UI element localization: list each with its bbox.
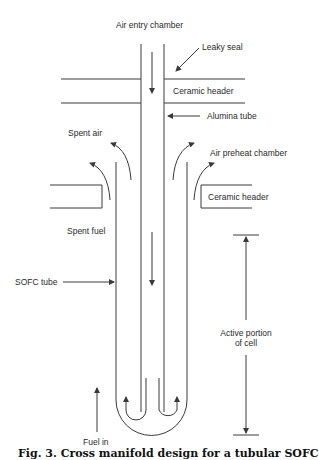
label-air-entry-chamber: Air entry chamber — [116, 20, 183, 30]
label-active-portion-line1: Active portion — [214, 328, 278, 338]
left-ceramic-header — [50, 185, 102, 208]
figure-caption: Fig. 3. Cross manifold design for a tubu… — [18, 447, 319, 460]
alumina-tube — [141, 44, 164, 412]
label-spent-fuel: Spent fuel — [67, 226, 105, 236]
label-sofc-tube: SOFC tube — [15, 277, 58, 287]
label-alumina-tube: Alumina tube — [207, 111, 257, 121]
label-ceramic-header-side: Ceramic header — [208, 192, 268, 202]
label-air-preheat-chamber: Air preheat chamber — [210, 148, 287, 158]
label-ceramic-header-top: Ceramic header — [173, 86, 233, 96]
label-fuel-in: Fuel in — [83, 437, 109, 447]
label-active-portion: Active portion of cell — [214, 328, 278, 348]
sofc-tube — [116, 162, 187, 435]
preheat-arrow-inner — [173, 143, 194, 180]
inner-return-arrow-right — [159, 378, 177, 416]
spent-fuel-arrow — [90, 163, 110, 200]
label-leaky-seal: Leaky seal — [202, 42, 243, 52]
label-spent-air: Spent air — [68, 128, 102, 138]
spent-air-arrow-inner — [111, 143, 131, 180]
leaky-seal-pointer — [176, 48, 199, 71]
inner-return-arrow-left — [126, 378, 146, 420]
label-active-portion-line2: of cell — [214, 338, 278, 348]
